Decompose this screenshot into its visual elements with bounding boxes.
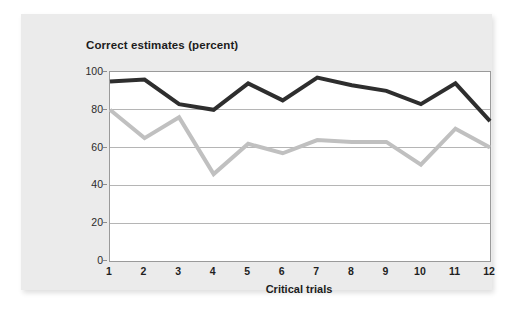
series-layer <box>110 72 490 261</box>
plot-area <box>109 71 491 262</box>
x-tick-label: 7 <box>301 265 331 277</box>
y-tick-mark <box>103 260 107 261</box>
data-lines-group <box>110 78 490 174</box>
x-tick-label: 4 <box>198 265 228 277</box>
chart-panel: Correct estimates (percent) 020406080100… <box>21 14 492 290</box>
data-line-light-series <box>110 110 490 174</box>
x-tick-label: 5 <box>232 265 262 277</box>
y-tick-label: 80 <box>69 103 103 115</box>
figure-container: Correct estimates (percent) 020406080100… <box>0 0 519 313</box>
x-tick-label: 9 <box>370 265 400 277</box>
data-line-dark-series <box>110 78 490 121</box>
x-tick-label: 11 <box>439 265 469 277</box>
x-tick-label: 12 <box>474 265 504 277</box>
y-tick-label: 40 <box>69 178 103 190</box>
y-axis-labels: 020406080100 <box>65 71 103 260</box>
y-tick-mark <box>103 147 107 148</box>
x-tick-label: 10 <box>405 265 435 277</box>
y-tick-label: 20 <box>69 216 103 228</box>
y-tick-label: 100 <box>69 65 103 77</box>
x-axis-title: Critical trials <box>109 283 489 295</box>
chart-title: Correct estimates (percent) <box>86 39 238 51</box>
y-tick-label: 60 <box>69 141 103 153</box>
y-tick-mark <box>103 222 107 223</box>
y-tick-mark <box>103 184 107 185</box>
x-tick-label: 8 <box>336 265 366 277</box>
x-tick-label: 3 <box>163 265 193 277</box>
x-axis-labels: 123456789101112 <box>109 265 489 281</box>
x-tick-label: 6 <box>267 265 297 277</box>
x-tick-label: 2 <box>129 265 159 277</box>
y-tick-mark <box>103 109 107 110</box>
y-tick-mark <box>103 71 107 72</box>
x-tick-label: 1 <box>94 265 124 277</box>
